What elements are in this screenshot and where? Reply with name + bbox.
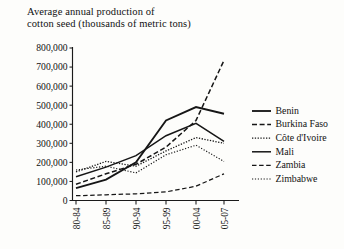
x-tick-label: 85-89 — [102, 207, 112, 229]
series-line-zimbabwe — [76, 145, 224, 173]
legend-item: Burkina Faso — [252, 118, 328, 129]
legend-label: Benin — [276, 105, 300, 116]
legend-label: Mali — [276, 146, 295, 157]
y-tick-label: 400,000 — [36, 119, 67, 130]
y-tick-label: 600,000 — [36, 81, 67, 92]
x-tick-label: 90-94 — [132, 207, 142, 229]
x-tick-label: 00-04 — [192, 207, 202, 229]
legend-item: Benin — [252, 105, 299, 116]
x-tick-label: 95-99 — [162, 207, 172, 229]
y-axis: 0100,000200,000300,000400,000500,000600,… — [36, 42, 72, 206]
legend-label: Zimbabwe — [276, 173, 319, 184]
legend-item: Zimbabwe — [252, 173, 318, 184]
y-axis-ticks: 0100,000200,000300,000400,000500,000600,… — [36, 42, 72, 206]
legend-label: Zambia — [276, 159, 307, 170]
series-line-mali — [76, 123, 224, 176]
y-tick-label: 500,000 — [36, 100, 67, 111]
x-tick-label: 05-07 — [220, 207, 230, 229]
y-tick-label: 100,000 — [36, 176, 67, 187]
x-axis-ticks: 80-8485-8990-9495-9900-0405-07 — [72, 201, 230, 230]
y-tick-label: 700,000 — [36, 61, 67, 72]
legend-label: Côte d'Ivoire — [276, 132, 328, 143]
y-tick-label: 300,000 — [36, 138, 67, 149]
x-axis: 80-8485-8990-9495-9900-0405-07 — [72, 201, 239, 230]
y-tick-label: 0 — [63, 195, 68, 206]
y-tick-label: 800,000 — [36, 42, 67, 53]
chart-container: Average annual production of cotton seed… — [0, 0, 344, 249]
y-tick-label: 200,000 — [36, 157, 67, 168]
legend-item: Zambia — [252, 159, 306, 170]
x-tick-label: 80-84 — [72, 207, 82, 229]
chart-plot: 0100,000200,000300,000400,000500,000600,… — [0, 0, 344, 249]
legend-item: Côte d'Ivoire — [252, 132, 327, 143]
chart-legend: BeninBurkina FasoCôte d'IvoireMaliZambia… — [252, 105, 328, 184]
legend-item: Mali — [252, 146, 294, 157]
series-line-burkina-faso — [76, 60, 224, 184]
legend-label: Burkina Faso — [276, 118, 329, 129]
series-layer — [76, 60, 224, 195]
